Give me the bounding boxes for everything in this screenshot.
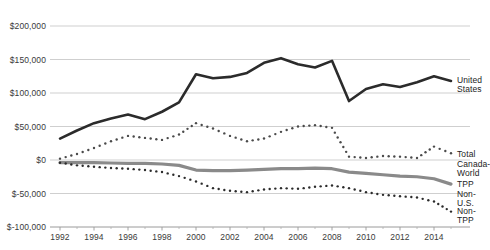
- y-axis-tick-label: $-100,000: [0, 222, 46, 232]
- x-axis-tick-label: 2004: [254, 232, 273, 242]
- x-axis-tick-label: 1994: [84, 232, 103, 242]
- series-1-dots: [59, 122, 452, 160]
- x-axis-tick-label: 1996: [118, 232, 137, 242]
- x-axis-tick-label: 2014: [424, 232, 443, 242]
- series-2-line: [60, 163, 451, 184]
- y-axis-tick-label: $150,000: [0, 55, 46, 65]
- x-axis-tick-label: 2008: [322, 232, 341, 242]
- y-axis-tick-label: $200,000: [0, 21, 46, 31]
- x-axis-tick-label: 2006: [288, 232, 307, 242]
- y-axis-tick-label: $50,000: [0, 122, 46, 132]
- x-axis-tick-label: 1992: [50, 232, 69, 242]
- x-axis-tick-label: 2012: [390, 232, 409, 242]
- series-label-tpp-non-u-s: TPP Non-U.S.: [457, 180, 483, 209]
- series-label-total-canada-world: Total Canada- World: [457, 150, 490, 179]
- x-axis-tick-label: 2000: [186, 232, 205, 242]
- series-label-united-states: United States: [457, 76, 483, 95]
- y-axis-tick-label: $100,000: [0, 88, 46, 98]
- y-axis-tick-label: $-50,000: [0, 189, 46, 199]
- y-axis-tick-label: $0: [0, 155, 46, 165]
- x-axis-tick-label: 1998: [152, 232, 171, 242]
- x-axis-tick-label: 2010: [356, 232, 375, 242]
- x-axis-tick-label: 2002: [220, 232, 239, 242]
- series-label-non-tpp: Non-TPP: [457, 207, 483, 226]
